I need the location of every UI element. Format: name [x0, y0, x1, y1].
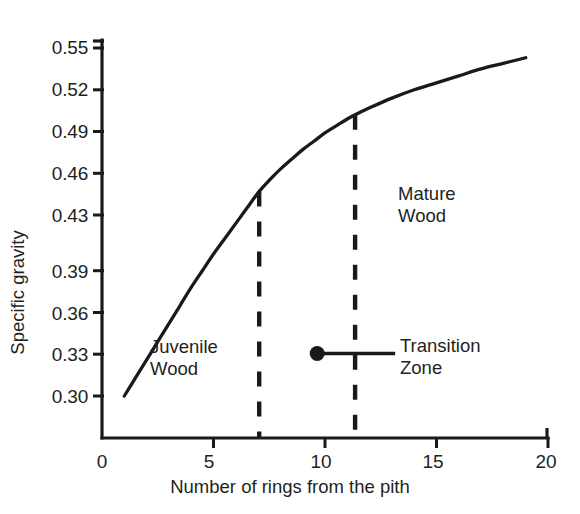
x-tick-label-1: 5: [179, 452, 239, 471]
annotation-mature-wood-line1: Mature: [398, 183, 456, 205]
annotation-juvenile-wood-line1: Juvenile: [150, 336, 218, 358]
annotation-juvenile-wood-line2: Wood: [150, 358, 218, 380]
y-tick-label-7: 0.33: [0, 345, 88, 364]
chart-plot-area: [0, 0, 580, 514]
annotation-transition-zone-line1: Transition: [400, 335, 481, 357]
y-axis-title-text: Specific gravity: [7, 230, 28, 354]
y-tick-label-5: 0.39: [0, 262, 88, 281]
y-tick-label-4: 0.43: [0, 206, 88, 225]
transition-zone-leader: [310, 346, 396, 361]
annotation-transition-zone: Transition Zone: [400, 335, 481, 379]
y-tick-label-6: 0.36: [0, 304, 88, 323]
chart-figure: Specific gravity Number of rings from th…: [0, 0, 580, 514]
annotation-mature-wood-line2: Wood: [398, 205, 456, 227]
transition-zone-leader-dot: [310, 346, 325, 361]
y-tick-label-1: 0.52: [0, 80, 88, 99]
y-tick-label-2: 0.49: [0, 122, 88, 141]
x-tick-label-4: 20: [516, 452, 576, 471]
annotation-transition-zone-line2: Zone: [400, 357, 481, 379]
y-tick-label-8: 0.30: [0, 387, 88, 406]
boundary-dashed-lines: [259, 115, 355, 438]
x-axis-title: Number of rings from the pith: [0, 478, 580, 497]
y-tick-label-3: 0.46: [0, 164, 88, 183]
annotation-juvenile-wood: Juvenile Wood: [150, 336, 218, 380]
y-tick-label-0: 0.55: [0, 38, 88, 57]
x-tick-label-2: 10: [291, 452, 351, 471]
x-tick-label-3: 15: [403, 452, 463, 471]
x-tick-label-0: 0: [72, 452, 132, 471]
annotation-mature-wood: Mature Wood: [398, 183, 456, 227]
